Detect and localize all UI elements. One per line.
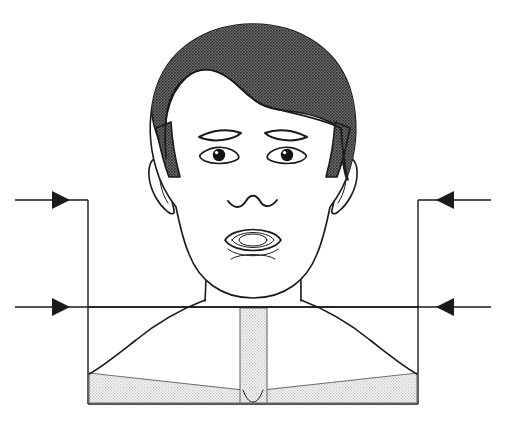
upper-left-arrow-head xyxy=(52,191,70,209)
right-eye-pupil xyxy=(281,149,293,161)
svg-text:Frontal view of head, neck and: Frontal view of head, neck and upper tor… xyxy=(0,10,38,13)
left-eye-highlight xyxy=(215,151,218,154)
left-shoulder xyxy=(89,300,205,374)
anatomical-illustration: Frontal view of head, neck and upper tor… xyxy=(0,0,506,427)
lower-right-measure-arrow xyxy=(88,298,491,316)
upper-left-measure-arrow xyxy=(15,191,88,209)
left-garment-panel xyxy=(89,373,243,403)
upper-right-measure-arrow xyxy=(418,191,491,209)
center-placket xyxy=(240,308,267,403)
right-garment-panel xyxy=(263,373,417,403)
right-eye-highlight xyxy=(283,151,286,154)
right-shoulder xyxy=(301,300,417,374)
upper-right-arrow-head xyxy=(436,191,454,209)
left-eye-pupil xyxy=(213,149,225,161)
lower-left-arrow-head xyxy=(52,298,70,316)
lower-right-arrow-head xyxy=(436,298,454,316)
head-group xyxy=(149,22,358,298)
figure-root: Frontal view of head, neck and upper tor… xyxy=(0,0,506,427)
